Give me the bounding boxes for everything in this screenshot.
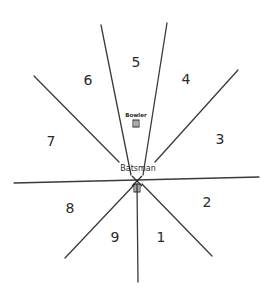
bowler-icon (133, 120, 139, 127)
batsman-marker: Batsman (120, 164, 155, 192)
zone-label-4: 4 (182, 71, 191, 87)
upper-left-6-7-boundary (34, 76, 119, 162)
zone-labels: 123456789 (47, 54, 225, 245)
bowler-marker: Bowler (125, 112, 147, 127)
upper-left-5-boundary (101, 25, 131, 175)
lower-left-8-9-boundary (65, 184, 135, 258)
zone-label-3: 3 (216, 131, 225, 147)
lower-vertical-9-1-boundary (137, 184, 138, 282)
lower-right-1-2-boundary (142, 184, 212, 256)
zone-label-9: 9 (111, 229, 120, 245)
bowler-label: Bowler (125, 112, 147, 118)
zone-label-1: 1 (157, 229, 166, 245)
zone-label-5: 5 (132, 54, 141, 70)
zone-label-7: 7 (47, 133, 56, 149)
zone-label-2: 2 (203, 194, 212, 210)
batsman-label: Batsman (120, 164, 155, 173)
upper-right-4-3-boundary (155, 70, 238, 162)
zone-label-6: 6 (84, 72, 93, 88)
diagram-canvas: 123456789 Bowler Batsman (0, 0, 276, 294)
batting-zones-diagram: 123456789 Bowler Batsman (0, 0, 276, 294)
zone-label-8: 8 (66, 200, 75, 216)
